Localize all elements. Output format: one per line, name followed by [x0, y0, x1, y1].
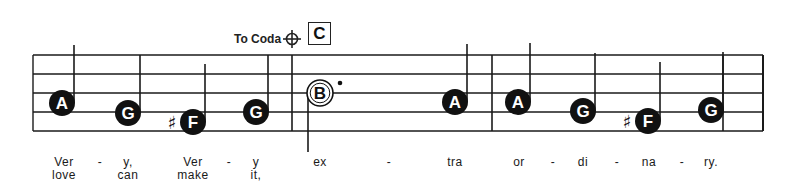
note-letter: A	[56, 94, 68, 113]
lyric-syllable: tra	[447, 156, 463, 168]
lyric-syllable: ry.	[704, 156, 718, 168]
rehearsal-mark: C	[308, 22, 331, 45]
sharp-icon: ♯	[168, 112, 177, 133]
augmentation-dot	[338, 81, 343, 86]
lyric-syllable: ex	[313, 156, 327, 168]
lyric-syllable: can	[118, 169, 139, 181]
note-letter: G	[121, 104, 134, 123]
sharp-icon: ♯	[623, 111, 632, 132]
lyric-syllable: -	[227, 156, 232, 168]
lyric-syllable: -	[680, 156, 685, 168]
lyric-syllable: Ver	[54, 156, 74, 168]
lyric-syllable: love	[52, 169, 76, 181]
lyric-syllable: make	[177, 169, 208, 181]
lyric-syllable: -	[615, 156, 620, 168]
note-letter: A	[512, 93, 524, 112]
lyric-syllable: it,	[251, 169, 262, 181]
lyric-syllable: y,	[123, 156, 132, 168]
note-letter: A	[449, 93, 461, 112]
note-letter: F	[643, 112, 653, 131]
lyric-syllable: di	[578, 156, 588, 168]
note-letter: B	[314, 84, 326, 103]
lyric-syllable: -	[387, 156, 392, 168]
to-coda-label: To Coda	[234, 32, 281, 46]
lyric-syllable: Ver	[183, 156, 203, 168]
note-letter: G	[249, 103, 262, 122]
lyric-syllable: y	[253, 156, 260, 168]
lyric-syllable: or	[513, 156, 525, 168]
note-letter: G	[576, 102, 589, 121]
note-letter: F	[188, 113, 198, 132]
lyric-syllable: -	[98, 156, 103, 168]
lyric-syllable: -	[551, 156, 556, 168]
note-letter: G	[704, 101, 717, 120]
lyric-syllable: na	[642, 156, 656, 168]
